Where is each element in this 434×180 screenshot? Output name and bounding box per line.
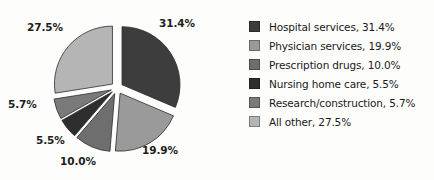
slice-label-all-other: 27.5% [27, 21, 63, 33]
legend-color-swatch [249, 40, 260, 51]
legend-color-swatch [249, 78, 260, 89]
pie-slice[interactable] [54, 26, 112, 93]
legend-item[interactable]: Physician services, 19.9% [249, 36, 434, 55]
legend-color-swatch [249, 116, 260, 127]
legend-color-swatch [249, 21, 260, 32]
chart-legend: Hospital services, 31.4%Physician servic… [249, 17, 434, 131]
pie-slice[interactable] [122, 27, 180, 108]
legend-item[interactable]: All other, 27.5% [249, 112, 434, 131]
legend-item-label: Hospital services, 31.4% [269, 21, 395, 33]
legend-item[interactable]: Nursing home care, 5.5% [249, 74, 434, 93]
legend-item-label: Prescription drugs, 10.0% [269, 59, 400, 71]
pie-slices [54, 26, 180, 151]
slice-label-prescription-drugs: 10.0% [60, 155, 96, 167]
slice-label-hospital-services: 31.4% [159, 17, 195, 29]
pie-chart-screenshot: 31.4% 19.9% 10.0% 5.5% 5.7% 27.5% Hospit… [0, 0, 434, 180]
legend-color-swatch [249, 59, 260, 70]
legend-item-label: All other, 27.5% [269, 116, 351, 128]
slice-label-physician-services: 19.9% [142, 144, 178, 156]
legend-item[interactable]: Research/construction, 5.7% [249, 93, 434, 112]
legend-item[interactable]: Prescription drugs, 10.0% [249, 55, 434, 74]
legend-item-label: Research/construction, 5.7% [269, 97, 415, 109]
legend-item-label: Physician services, 19.9% [269, 40, 401, 52]
pie-chart-graphic: 31.4% 19.9% 10.0% 5.5% 5.7% 27.5% [0, 0, 215, 180]
slice-label-research-construction: 5.7% [8, 98, 37, 110]
slice-label-nursing-home-care: 5.5% [36, 134, 65, 146]
legend-color-swatch [249, 97, 260, 108]
legend-item-label: Nursing home care, 5.5% [269, 78, 399, 90]
legend-item[interactable]: Hospital services, 31.4% [249, 17, 434, 36]
